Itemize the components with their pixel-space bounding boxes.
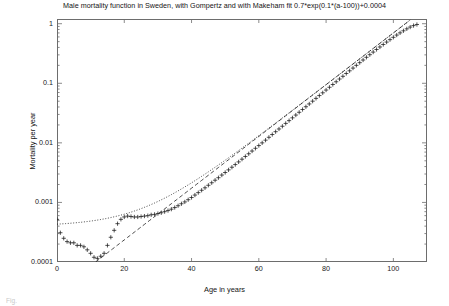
y-axis-tick-labels: 10.10.010.0010.0001 (0, 0, 53, 306)
y-tick-label: 0.1 (43, 79, 53, 87)
x-axis-tick-labels: 020406080100 (0, 265, 449, 277)
plot-canvas (57, 19, 427, 262)
chart-title: Male mortality function in Sweden, with … (0, 1, 449, 11)
x-tick-label: 0 (55, 265, 59, 273)
x-tick-label: 100 (387, 265, 399, 273)
mortality-data-points (57, 22, 419, 260)
gompertz-fit-line (96, 20, 411, 262)
plot-area (57, 19, 427, 262)
x-tick-label: 20 (120, 265, 128, 273)
x-tick-label: 80 (322, 265, 330, 273)
x-axis-label: Age in years (0, 285, 449, 294)
y-tick-label: 1 (49, 20, 53, 28)
y-tick-label: 0.001 (35, 198, 53, 206)
y-tick-label: 0.01 (39, 139, 53, 147)
makeham-fit-line (57, 20, 410, 224)
axis-ticks (57, 19, 427, 262)
figure-caption-fragment: Fig. (6, 297, 17, 305)
x-tick-label: 40 (188, 265, 196, 273)
x-tick-label: 60 (255, 265, 263, 273)
